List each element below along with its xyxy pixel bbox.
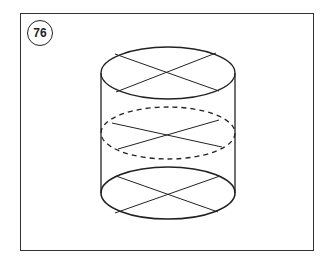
middle-diameter-2 bbox=[118, 120, 219, 149]
bottom-diameter-1 bbox=[116, 176, 218, 212]
cylinder-diagram bbox=[0, 0, 330, 261]
middle-cross-section-ellipse bbox=[101, 107, 235, 159]
top-diameter-2 bbox=[116, 53, 216, 92]
